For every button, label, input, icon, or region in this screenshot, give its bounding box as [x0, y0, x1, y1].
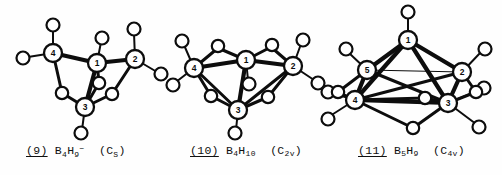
formula-hydrogen: H [406, 144, 413, 157]
h-atom-terminal [243, 78, 256, 91]
boron-label: 2 [460, 67, 465, 77]
symmetry-close: ) [458, 144, 465, 157]
boron-label: 3 [236, 105, 241, 115]
symmetry-point-group: 2v [285, 149, 295, 158]
compound-number: (9) [26, 144, 48, 157]
compound-number: (11) [358, 144, 387, 157]
h-atom-terminal [75, 127, 88, 140]
formula-boron: B [55, 144, 62, 157]
symmetry-close: ) [295, 144, 302, 157]
compound-number: (10) [190, 144, 219, 157]
symmetry-open: (C [270, 144, 284, 157]
structure-diagram-10: 4 1 2 3 [168, 0, 328, 140]
caption-spacer [387, 144, 394, 157]
caption-spacer [219, 144, 226, 157]
h-atom-bridging [332, 86, 344, 98]
caption-spacer [48, 144, 55, 157]
structure-9-svg: 4 1 2 3 [0, 0, 170, 140]
h-atom-bridging [205, 90, 217, 102]
h-atom-bridging [212, 40, 224, 52]
h-atom-bridging [106, 88, 118, 100]
structure-11-svg: 1 2 3 4 5 [328, 0, 502, 140]
h-atom-bridging [262, 91, 274, 103]
h-atom-bridging [470, 86, 482, 98]
hydrogens-10 [167, 34, 325, 140]
boron-label: 4 [51, 48, 56, 58]
boron-label: 1 [406, 35, 411, 45]
h-atom-terminal [155, 68, 168, 81]
structure-diagram-11: 1 2 3 4 5 [328, 0, 502, 140]
caption-structure-10: (10) B4H10 (C2v) [190, 144, 302, 168]
h-atom-terminal [473, 121, 486, 134]
boron-label: 5 [365, 65, 370, 75]
boron-label: 4 [353, 95, 358, 105]
boron-label: 2 [291, 61, 296, 71]
h-atom-bridging [93, 77, 105, 89]
h-atom-bridging [56, 87, 68, 99]
h-atom-terminal [167, 79, 180, 92]
h-atom-terminal [322, 113, 335, 126]
boron-label: 3 [446, 98, 451, 108]
h-atom-terminal [229, 127, 242, 140]
h-atom-terminal [17, 52, 30, 65]
h-atom-terminal [402, 6, 415, 19]
figure-canvas: 4 1 2 3 [0, 0, 502, 175]
caption-spacer [256, 144, 270, 157]
structure-10-svg: 4 1 2 3 [168, 0, 328, 140]
h-atom-terminal [128, 23, 141, 36]
caption-structure-9: (9) B4H9− (CS) [26, 144, 126, 168]
bonds-11 [338, 40, 476, 128]
h-atom-terminal [96, 32, 109, 45]
h-atom-terminal [47, 19, 60, 32]
boron-label: 3 [83, 102, 88, 112]
h-atom-bridging [407, 122, 419, 134]
symmetry-point-group: 4v [447, 149, 457, 158]
h-atom-bridging [266, 39, 278, 51]
h-atom-terminal [479, 43, 492, 56]
h-atom-bridging [419, 92, 431, 104]
caption-spacer [85, 144, 99, 157]
formula-hydrogen: H [238, 144, 245, 157]
bond-hb2-b4 [355, 98, 425, 100]
boron-label: 4 [192, 63, 197, 73]
boron-label: 1 [244, 55, 249, 65]
symmetry-open: (C [433, 144, 447, 157]
symmetry-open: (C [99, 144, 113, 157]
structure-diagram-9: 4 1 2 3 [0, 0, 170, 140]
formula-hydrogen-count: 10 [246, 149, 256, 158]
symmetry-close: ) [118, 144, 125, 157]
boron-label: 1 [95, 58, 100, 68]
h-atom-terminal [340, 43, 353, 56]
caption-spacer [419, 144, 433, 157]
boron-label: 2 [133, 54, 138, 64]
h-atom-terminal [297, 34, 310, 47]
caption-structure-11: (11) B5H9 (C4v) [358, 144, 465, 168]
h-atom-terminal [176, 35, 189, 48]
